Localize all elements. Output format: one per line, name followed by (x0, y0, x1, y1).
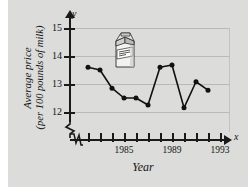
x-tick-1990 (184, 133, 186, 142)
gridline-14 (70, 56, 230, 57)
x-tick-1982 (88, 133, 90, 142)
x-tick-1984 (112, 133, 114, 142)
gridline-12 (70, 112, 230, 113)
x-axis-title: Year (78, 160, 208, 175)
x-tick-label-1989: 1989 (152, 145, 192, 155)
x-tick-1983 (100, 133, 102, 142)
x-tick-label-1985: 1985 (104, 145, 144, 155)
plot-area (70, 28, 230, 132)
x-tick-1987 (148, 133, 150, 142)
y-tick-13 (64, 84, 75, 86)
gridline-15 (70, 28, 230, 29)
gridline-13 (70, 84, 230, 85)
y-tick-label-13: 13 (46, 78, 62, 89)
x-tick-1991 (196, 133, 198, 142)
y-tick-label-12: 12 (46, 106, 62, 117)
x-axis-arrow (224, 135, 232, 145)
x-tick-1989 (172, 133, 174, 142)
y-tick-15 (64, 28, 75, 30)
y-tick-14 (64, 56, 75, 58)
y-axis-label-line1: Average price (21, 28, 33, 128)
x-tick-1993 (220, 133, 222, 142)
x-axis-letter: x (234, 131, 238, 142)
y-axis-line (69, 16, 71, 122)
x-axis-break-symbol (70, 132, 86, 147)
x-tick-1992 (208, 133, 210, 142)
x-tick-1988 (160, 133, 162, 142)
y-tick-label-14: 14 (46, 50, 62, 61)
y-tick-12 (64, 112, 75, 114)
y-tick-label-15: 15 (46, 22, 62, 33)
x-tick-1986 (136, 133, 138, 142)
y-axis-label-line2: (per 100 pounds of milk) (34, 20, 45, 136)
milk-carton-icon (111, 30, 139, 70)
y-axis-letter: y (72, 8, 76, 19)
x-tick-1985 (124, 133, 126, 142)
figure-panel: Average price (per 100 pounds of milk) y… (8, 0, 248, 187)
plot-right-edge (229, 28, 230, 132)
x-tick-label-1993: 1993 (200, 145, 240, 155)
